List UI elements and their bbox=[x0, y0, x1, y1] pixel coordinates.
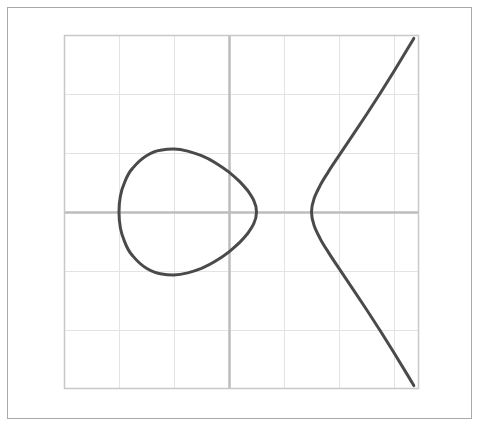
elliptic-curve-plot bbox=[0, 0, 479, 431]
